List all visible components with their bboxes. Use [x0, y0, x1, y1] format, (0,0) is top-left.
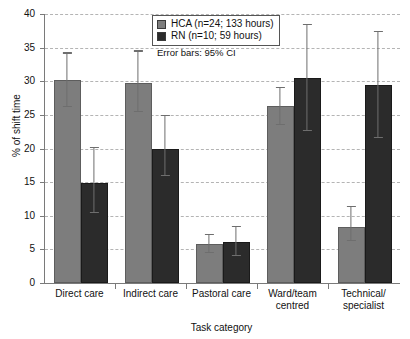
bar-rn-wrapper — [294, 14, 321, 283]
error-bar — [66, 52, 67, 106]
error-bar-cap-bottom — [374, 137, 383, 138]
bar-hca-wrapper — [267, 14, 294, 283]
legend-swatch-icon — [157, 32, 166, 41]
error-bar-cap-top — [276, 87, 285, 88]
error-bar-cap-bottom — [303, 130, 312, 131]
error-bar-cap-top — [134, 50, 143, 51]
error-bar-cap-top — [205, 234, 214, 235]
error-bar-cap-bottom — [232, 255, 241, 256]
x-axis-category-label: Ward/teamcentred — [257, 288, 328, 311]
error-bar-cap-top — [161, 115, 170, 116]
y-axis-tick-label: 40 — [5, 9, 35, 19]
error-bar-cap-top — [347, 206, 356, 207]
bar-group — [258, 14, 329, 283]
chart-figure: % of shift time 0510152025303540 Direct … — [0, 0, 410, 339]
x-axis-category-label: Indirect care — [115, 288, 186, 311]
error-bar — [208, 234, 209, 253]
bar-hca[interactable] — [267, 106, 294, 283]
legend: HCA (n=24; 133 hours)RN (n=10; 59 hours) — [152, 15, 280, 46]
legend-label: RN (n=10; 59 hours) — [171, 30, 262, 42]
legend-item[interactable]: RN (n=10; 59 hours) — [157, 30, 274, 42]
error-bar-cap-bottom — [276, 124, 285, 125]
error-bar — [377, 31, 378, 139]
bar-hca[interactable] — [54, 80, 81, 283]
bar-hca-wrapper — [125, 14, 152, 283]
error-bar — [350, 206, 351, 242]
y-axis-tick-mark — [40, 283, 45, 284]
bar-rn-wrapper — [365, 14, 392, 283]
y-axis-tick-label: 35 — [5, 43, 35, 53]
y-axis-tick-label: 20 — [5, 144, 35, 154]
error-bar-cap-bottom — [63, 106, 72, 107]
error-bar-annotation: Error bars: 95% CI — [157, 47, 236, 58]
bar-hca[interactable] — [125, 83, 152, 283]
error-bar-cap-bottom — [90, 212, 99, 213]
error-bar-cap-bottom — [205, 252, 214, 253]
x-axis-category-label: Technical/specialist — [328, 288, 399, 311]
y-axis-tick-label: 10 — [5, 211, 35, 221]
error-bar — [306, 24, 307, 131]
error-bar — [164, 115, 165, 176]
x-axis-tick-labels: Direct careIndirect carePastoral careWar… — [44, 288, 399, 311]
legend-label: HCA (n=24; 133 hours) — [171, 18, 274, 30]
y-axis-tick-label: 30 — [5, 76, 35, 86]
y-axis-tick-label: 0 — [5, 278, 35, 288]
bar-hca-wrapper — [338, 14, 365, 283]
error-bar-cap-top — [90, 147, 99, 148]
error-bar-cap-top — [374, 31, 383, 32]
x-axis-title: Task category — [44, 322, 399, 333]
error-bar-cap-top — [232, 226, 241, 227]
bar-group — [45, 14, 116, 283]
error-bar-cap-top — [63, 52, 72, 53]
x-axis-category-label: Pastoral care — [186, 288, 257, 311]
bar-hca-wrapper — [54, 14, 81, 283]
error-bar — [93, 147, 94, 214]
y-axis-tick-label: 25 — [5, 110, 35, 120]
legend-swatch-icon — [157, 20, 166, 29]
legend-item[interactable]: HCA (n=24; 133 hours) — [157, 18, 274, 30]
error-bar-cap-top — [303, 24, 312, 25]
bar-rn-wrapper — [81, 14, 108, 283]
y-axis-tick-label: 15 — [5, 177, 35, 187]
error-bar-cap-bottom — [347, 240, 356, 241]
y-axis-tick-label: 5 — [5, 244, 35, 254]
error-bar-cap-bottom — [161, 175, 170, 176]
bar-group — [329, 14, 400, 283]
error-bar — [137, 50, 138, 112]
error-bar — [279, 87, 280, 125]
x-axis-category-label: Direct care — [44, 288, 115, 311]
error-bar — [235, 226, 236, 256]
error-bar-cap-bottom — [134, 111, 143, 112]
